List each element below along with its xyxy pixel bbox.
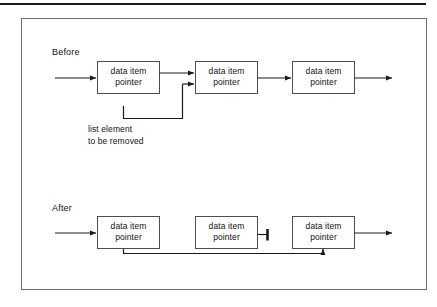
after-node-3-line1: data item [292,221,355,233]
before-node-3-line2: pointer [292,77,355,89]
after-node-1-line2: pointer [97,232,160,244]
before-node-1-line1: data item [97,66,160,78]
removed-element-annotation-line2: to be removed [88,136,144,148]
after-node-3-line2: pointer [292,232,355,244]
figure-page: Before After data item pointer data item… [0,0,437,307]
before-node-2-line2: pointer [195,77,258,89]
after-node-1-line1: data item [97,221,160,233]
after-node-2-line1: data item [195,221,258,233]
removed-element-annotation-line1: list element [88,124,132,136]
before-node-3-line1: data item [292,66,355,78]
section-label-before: Before [52,47,80,57]
before-node-2-line1: data item [195,66,258,78]
after-bypass-link [124,249,324,255]
after-node-2-line2: pointer [195,232,258,244]
before-node-1-line2: pointer [97,77,160,89]
section-label-after: After [52,203,72,213]
